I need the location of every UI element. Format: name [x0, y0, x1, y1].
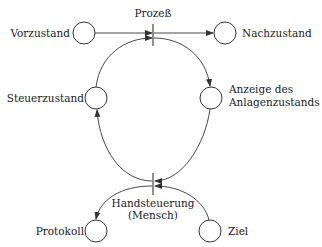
place-ziel [199, 220, 221, 242]
petri-net-diagram: Prozeß Handsteuerung (Mensch) Vorzustand… [0, 0, 322, 247]
place-vorzustand [73, 22, 95, 44]
place-anzeige-label-1: Anzeige des [228, 83, 293, 95]
place-protokoll [85, 220, 107, 242]
transition-handsteuerung-label-2: (Mensch) [128, 209, 178, 221]
transition-prozess-label: Prozeß [134, 7, 171, 19]
transition-handsteuerung-label-1: Handsteuerung [112, 197, 195, 209]
place-steuerzustand-label: Steuerzustand [7, 92, 85, 104]
place-ziel-label: Ziel [228, 225, 249, 237]
arc-steuerzustand-prozess [96, 38, 152, 87]
place-vorzustand-label: Vorzustand [9, 27, 70, 39]
place-nachzustand-label: Nachzustand [242, 27, 312, 39]
place-steuerzustand [85, 87, 107, 109]
place-nachzustand [214, 22, 236, 44]
place-protokoll-label: Protokoll [36, 225, 85, 237]
place-anzeige-label-2: Anlagenzustands [228, 96, 320, 108]
place-anzeige [200, 87, 222, 109]
arc-anzeige-handsteuerung [155, 109, 210, 181]
arc-prozess-anzeige [154, 38, 210, 86]
arc-handsteuerung-steuerzustand [97, 110, 152, 181]
